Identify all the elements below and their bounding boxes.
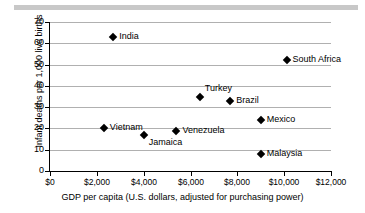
y-tick-label: 70 — [22, 17, 44, 26]
diamond-marker-icon — [196, 92, 204, 100]
data-point-label: Malaysia — [267, 149, 303, 158]
y-tick-label: 10 — [22, 145, 44, 154]
x-tick-mark — [97, 172, 98, 176]
y-tick-mark — [45, 65, 49, 66]
y-tick-label: 20 — [22, 123, 44, 132]
diamond-marker-icon — [100, 124, 108, 132]
x-tick-mark — [144, 172, 145, 176]
x-tick-mark — [191, 172, 192, 176]
y-tick-mark — [45, 107, 49, 108]
y-tick-mark — [45, 86, 49, 87]
x-tick-label: $0 — [27, 178, 73, 187]
x-tick-mark — [284, 172, 285, 176]
x-tick-mark — [237, 172, 238, 176]
diamond-marker-icon — [257, 150, 265, 158]
x-tick-mark — [331, 172, 332, 176]
x-tick-label: $8,000 — [214, 178, 260, 187]
data-point-label: Brazil — [236, 96, 259, 105]
scatter-chart-figure: Infant deaths per 1,000 live births 0102… — [0, 0, 365, 213]
x-tick-label: $4,000 — [121, 178, 167, 187]
y-tick-label: 50 — [22, 60, 44, 69]
data-point-label: Jamaica — [149, 138, 183, 147]
diamond-marker-icon — [172, 126, 180, 134]
y-tick-mark — [45, 43, 49, 44]
x-tick-label: $12,000 — [308, 178, 354, 187]
decorative-grey-bar — [14, 5, 358, 10]
diamond-marker-icon — [109, 33, 117, 41]
y-tick-label: 30 — [22, 102, 44, 111]
data-point-label: South Africa — [293, 55, 342, 64]
data-point-label: Turkey — [205, 84, 232, 93]
data-point-label: Venezuela — [182, 126, 224, 135]
y-tick-mark — [45, 150, 49, 151]
y-tick-mark — [45, 171, 49, 172]
x-tick-label: $6,000 — [168, 178, 214, 187]
diamond-marker-icon — [257, 116, 265, 124]
plot-area: IndiaSouth AfricaTurkeyBrazilMexicoVietn… — [50, 22, 331, 171]
x-tick-label: $2,000 — [74, 178, 120, 187]
y-tick-mark — [45, 128, 49, 129]
y-tick-label: 0 — [22, 166, 44, 175]
diamond-marker-icon — [226, 97, 234, 105]
y-tick-mark — [45, 22, 49, 23]
x-tick-mark — [50, 172, 51, 176]
data-point-label: Vietnam — [110, 123, 143, 132]
x-axis-title: GDP per capita (U.S. dollars, adjusted f… — [0, 192, 365, 202]
diamond-marker-icon — [282, 56, 290, 64]
y-tick-label: 60 — [22, 38, 44, 47]
y-tick-label: 40 — [22, 81, 44, 90]
data-point-label: India — [119, 32, 139, 41]
data-point-label: Mexico — [267, 115, 296, 124]
x-tick-label: $10,000 — [261, 178, 307, 187]
